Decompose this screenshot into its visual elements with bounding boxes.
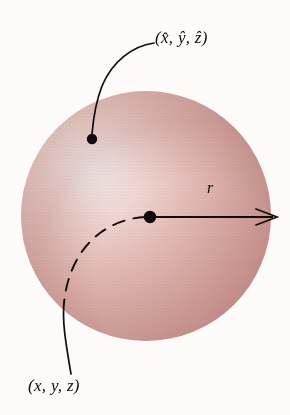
sphere-diagram-canvas [0,0,290,415]
surface-point-label: (x̂, ŷ, ẑ) [155,29,208,46]
scan-grain-overlay [0,0,290,415]
radius-label: r [207,180,213,196]
center-point-label: (x, y, z) [28,377,80,394]
figure-container: (x̂, ŷ, ẑ) (x, y, z) r [0,0,290,415]
